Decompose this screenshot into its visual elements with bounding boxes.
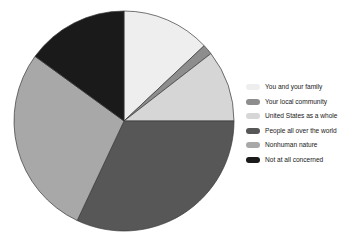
pie-slice-group <box>14 11 234 231</box>
legend-swatch-icon <box>246 157 260 163</box>
legend-item: People all over the world <box>246 124 362 139</box>
legend-swatch-icon <box>246 84 260 90</box>
pie-chart-plot <box>12 6 237 238</box>
pie-chart-figure: You and your family Your local community… <box>0 0 363 244</box>
legend-swatch-icon <box>246 99 260 105</box>
legend-item: Your local community <box>246 95 362 110</box>
legend-item: Not at all concerned <box>246 153 362 168</box>
legend-item-label: Your local community <box>265 98 327 106</box>
legend-item-label: Nonhuman nature <box>265 141 318 149</box>
pie-chart-svg <box>12 6 237 238</box>
legend-item-label: United States as a whole <box>265 112 337 120</box>
legend-item: You and your family <box>246 80 362 95</box>
legend-item: United States as a whole <box>246 109 362 124</box>
legend-item: Nonhuman nature <box>246 138 362 153</box>
legend-item-label: Not at all concerned <box>265 156 323 164</box>
legend-item-label: People all over the world <box>265 127 337 135</box>
chart-legend: You and your family Your local community… <box>246 80 362 167</box>
legend-item-label: You and your family <box>265 83 322 91</box>
legend-swatch-icon <box>246 128 260 134</box>
legend-swatch-icon <box>246 142 260 148</box>
legend-swatch-icon <box>246 113 260 119</box>
